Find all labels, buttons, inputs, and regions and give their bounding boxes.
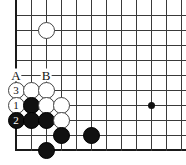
stone-move-number: 2 <box>13 114 19 125</box>
white-stone-a-below[interactable] <box>23 82 40 99</box>
point-label-b: B <box>41 69 52 82</box>
white-stone-3[interactable]: 3 <box>8 82 25 99</box>
black-stone-row8-f[interactable] <box>83 127 100 144</box>
grid-line-horizontal <box>16 15 186 16</box>
goban-grid[interactable]: AB312 <box>0 0 186 165</box>
white-stone-top[interactable] <box>38 22 55 39</box>
star-point-right <box>148 102 155 109</box>
white-stone-row7-d[interactable] <box>53 112 70 129</box>
black-stone-upper[interactable] <box>23 97 40 114</box>
grid-line-horizontal <box>16 45 186 46</box>
grid-line-vertical <box>121 0 122 151</box>
grid-line-vertical <box>181 0 182 151</box>
white-stone-mid[interactable] <box>38 97 55 114</box>
point-label-a: A <box>10 69 21 82</box>
stone-move-number: 3 <box>13 84 19 95</box>
white-stone-mid-right[interactable] <box>53 97 70 114</box>
grid-line-vertical <box>106 0 107 151</box>
black-stone-row9-c[interactable] <box>38 142 55 159</box>
grid-line-vertical <box>136 0 137 151</box>
white-stone-1[interactable]: 1 <box>8 97 25 114</box>
black-stone-2[interactable]: 2 <box>8 112 25 129</box>
grid-line-horizontal <box>16 135 186 136</box>
stone-move-number: 1 <box>13 99 19 110</box>
white-stone-b-below[interactable] <box>38 82 55 99</box>
black-stone-row7-b[interactable] <box>23 112 40 129</box>
grid-line-vertical <box>76 0 77 151</box>
grid-line-vertical <box>151 0 152 151</box>
black-stone-row8-d[interactable] <box>53 127 70 144</box>
go-board-diagram: AB312 <box>0 0 186 165</box>
black-stone-row7-c[interactable] <box>38 112 55 129</box>
grid-line-horizontal <box>16 60 186 61</box>
grid-line-vertical <box>166 0 167 151</box>
